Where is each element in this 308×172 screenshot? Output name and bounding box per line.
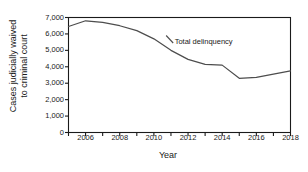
x-tick-label: 2018 — [282, 134, 299, 142]
x-tick-label: 2012 — [180, 134, 197, 142]
series-line — [69, 21, 291, 79]
chart-figure: Cases judicially waived to criminal cour… — [0, 0, 308, 172]
annotation-leader-line — [166, 36, 173, 44]
x-tick-label: 2014 — [214, 134, 231, 142]
series-annotations: Total delinquency — [166, 36, 233, 46]
series-lines — [69, 21, 291, 79]
x-tick-label: 2008 — [111, 134, 128, 142]
series-annotation-label: Total delinquency — [175, 37, 233, 46]
plot-frame — [69, 18, 291, 133]
x-tick-label: 2016 — [248, 134, 265, 142]
x-tick-label: 2010 — [146, 134, 163, 142]
x-axis-title: Year — [0, 150, 308, 161]
x-axis-tick-labels: 2006200820102012201420162018 — [0, 134, 308, 148]
x-axis-title-text: Year — [159, 150, 177, 161]
x-tick-label: 2006 — [77, 134, 94, 142]
